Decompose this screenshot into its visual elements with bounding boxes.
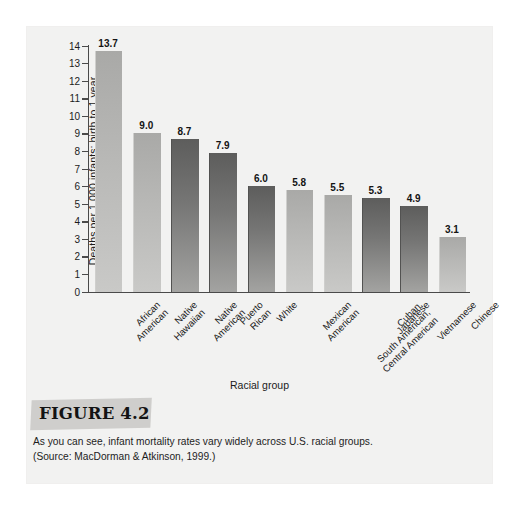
bar[interactable] <box>248 186 276 291</box>
x-category-label: NativeHawaiian <box>164 299 207 342</box>
bar-value-label: 13.7 <box>98 38 117 49</box>
bar[interactable] <box>95 51 123 292</box>
y-tick-label: 1 <box>56 269 80 280</box>
bar[interactable] <box>439 237 467 291</box>
bar-value-label: 7.9 <box>216 140 230 151</box>
y-tick <box>82 133 88 134</box>
y-tick-label: 13 <box>56 58 80 69</box>
bar-slot[interactable]: 3.1 <box>439 221 466 291</box>
caption-line-1: As you can see, infant mortality rates v… <box>33 435 463 450</box>
x-axis-line <box>88 292 470 293</box>
bar[interactable] <box>171 139 199 292</box>
caption-source: (Source: MacDorman & Atkinson, 1999.) <box>33 450 463 465</box>
y-tick-label: 3 <box>56 233 80 244</box>
y-tick-label: 9 <box>56 128 80 139</box>
y-tick <box>82 186 88 187</box>
x-axis-category-labels: AfricanAmericanNativeHawaiianNativeAmeri… <box>89 295 471 387</box>
bar-slot[interactable]: 8.7 <box>171 123 198 292</box>
bar-slot[interactable]: 5.5 <box>324 179 351 292</box>
bar-slot[interactable]: 9.0 <box>133 117 160 291</box>
bar[interactable] <box>286 190 314 292</box>
y-tick-label: 14 <box>56 40 80 51</box>
figure-panel: Deaths per 1,000 infants: birth to 1 yea… <box>27 27 492 483</box>
bar-series: 13.79.08.77.96.05.85.55.34.93.1 <box>89 46 470 292</box>
y-tick <box>82 221 88 222</box>
y-tick <box>82 46 88 47</box>
bar[interactable] <box>400 206 428 292</box>
bar-slot[interactable]: 4.9 <box>400 190 427 292</box>
y-tick <box>82 256 88 257</box>
y-tick-label: 12 <box>56 75 80 86</box>
y-tick-label: 11 <box>56 93 80 104</box>
x-category-label: AfricanAmerican <box>126 299 170 343</box>
y-tick-label: 7 <box>56 163 80 174</box>
plot-region: 01234567891011121314 13.79.08.77.96.05.8… <box>88 45 470 293</box>
bar-slot[interactable]: 7.9 <box>209 137 236 292</box>
bar[interactable] <box>133 133 161 291</box>
bar-value-label: 6.0 <box>254 173 268 184</box>
bar-value-label: 5.8 <box>292 177 306 188</box>
bar-value-label: 5.3 <box>369 185 383 196</box>
y-tick-label: 5 <box>56 198 80 209</box>
figure-label: FIGURE 4.2 <box>39 404 150 423</box>
bar-value-label: 5.5 <box>330 182 344 193</box>
x-category-label: Cuban,South American,Central American <box>365 299 440 374</box>
x-category-label: White <box>274 299 299 324</box>
bar-slot[interactable]: 5.3 <box>362 182 389 291</box>
bar-slot[interactable]: 6.0 <box>248 170 275 291</box>
y-tick-label: 4 <box>56 216 80 227</box>
y-tick <box>82 204 88 205</box>
y-tick-label: 10 <box>56 110 80 121</box>
y-tick-label: 8 <box>56 146 80 157</box>
x-category-label: MexicanAmerican <box>317 299 361 343</box>
x-axis-title: Racial group <box>27 379 492 391</box>
y-tick-label: 0 <box>56 286 80 297</box>
bar[interactable] <box>324 195 352 292</box>
y-tick-label: 2 <box>56 251 80 262</box>
bar-slot[interactable]: 5.8 <box>286 174 313 292</box>
y-tick-label: 6 <box>56 181 80 192</box>
y-tick <box>82 239 88 240</box>
y-tick <box>82 116 88 117</box>
bar[interactable] <box>362 198 390 291</box>
y-tick <box>82 81 88 82</box>
y-tick <box>82 151 88 152</box>
bar-value-label: 3.1 <box>445 224 459 235</box>
figure-caption: As you can see, infant mortality rates v… <box>33 435 463 464</box>
bar[interactable] <box>209 153 237 292</box>
bar-slot[interactable]: 13.7 <box>95 35 122 292</box>
bar-value-label: 4.9 <box>407 193 421 204</box>
bar-value-label: 8.7 <box>178 126 192 137</box>
bar-value-label: 9.0 <box>139 120 153 131</box>
y-tick <box>82 63 88 64</box>
x-category-label: PuertoRican <box>237 299 273 335</box>
y-tick <box>82 98 88 99</box>
y-tick <box>82 292 88 293</box>
chart-area: Deaths per 1,000 infants: birth to 1 yea… <box>27 27 492 387</box>
y-tick <box>82 274 88 275</box>
y-tick <box>82 169 88 170</box>
figure-root: Deaths per 1,000 infants: birth to 1 yea… <box>0 0 518 505</box>
